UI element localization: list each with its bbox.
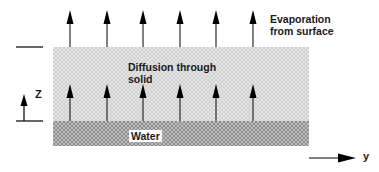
up-arrow-icon: [213, 84, 220, 121]
up-arrow-icon: [104, 84, 111, 121]
water-label: Water: [129, 130, 162, 142]
diffusion-label-line1: Diffusion through: [128, 61, 216, 73]
y-axis-arrow-icon: [309, 154, 356, 163]
up-arrow-icon: [67, 10, 74, 47]
z-axis-arrow-icon: [21, 94, 28, 121]
up-arrow-icon: [140, 10, 147, 47]
diffusion-label: Diffusion through solid: [128, 61, 216, 85]
y-axis-label: y: [363, 150, 369, 162]
diffusion-label-line2: solid: [128, 73, 216, 85]
up-arrow-icon: [177, 84, 184, 121]
up-arrow-icon: [67, 84, 74, 121]
up-arrow-icon: [177, 10, 184, 47]
evaporation-diffusion-diagram: Evaporation from surface Diffusion throu…: [0, 0, 379, 172]
up-arrow-icon: [250, 10, 257, 47]
up-arrow-icon: [250, 84, 257, 121]
diffusion-arrows: [67, 84, 257, 121]
evaporation-arrows: [67, 10, 257, 47]
up-arrow-icon: [104, 10, 111, 47]
evaporation-label-line2: from surface: [270, 25, 334, 37]
evaporation-label-line1: Evaporation: [270, 13, 334, 25]
evaporation-label: Evaporation from surface: [270, 13, 334, 37]
up-arrow-icon: [213, 10, 220, 47]
z-axis-label: Z: [35, 88, 42, 100]
up-arrow-icon: [140, 84, 147, 121]
